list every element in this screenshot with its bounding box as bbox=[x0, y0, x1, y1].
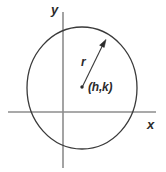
radius-arrowhead-icon bbox=[100, 40, 106, 48]
circle-diagram-figure: y x r (h,k) bbox=[0, 0, 166, 172]
center-coordinates-label: (h,k) bbox=[88, 81, 112, 93]
radius-label: r bbox=[81, 56, 85, 68]
center-point-dot bbox=[80, 85, 83, 88]
y-axis-label: y bbox=[51, 3, 58, 16]
diagram-canvas bbox=[0, 0, 166, 172]
x-axis-label: x bbox=[147, 118, 154, 131]
